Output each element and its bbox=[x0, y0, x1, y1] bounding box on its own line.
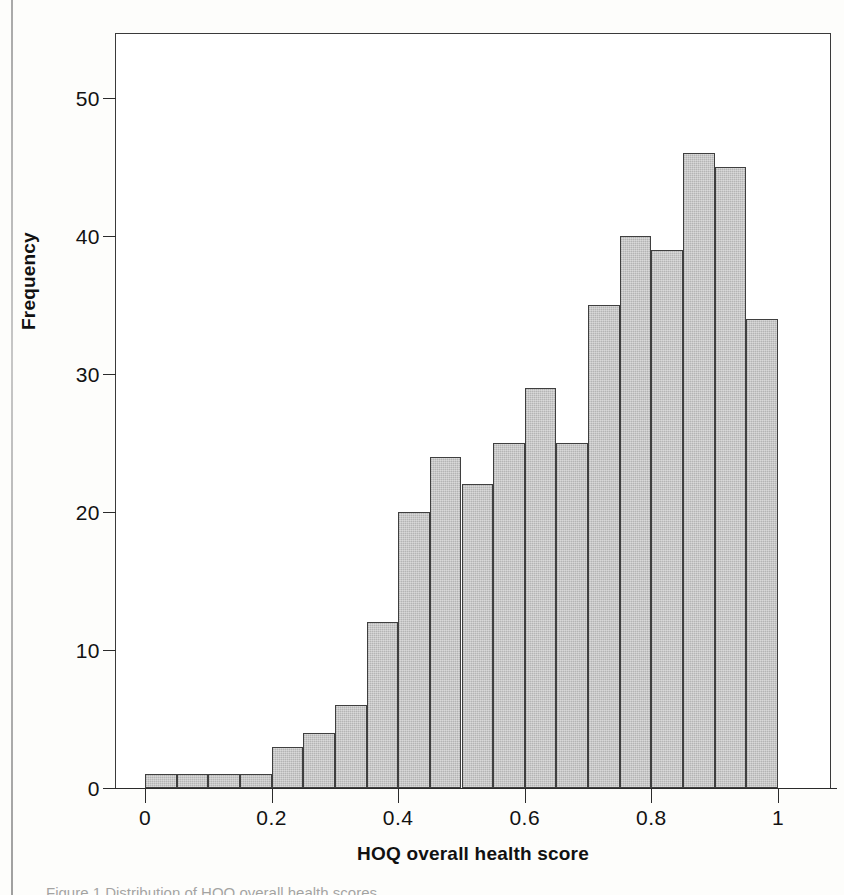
histogram-figure: 01020304050 00.20.40.60.81 Frequency HOQ… bbox=[0, 0, 844, 895]
x-axis-tick-label: 0.2 bbox=[232, 806, 312, 830]
y-axis-tick-label: 50 bbox=[40, 87, 100, 111]
histogram-bar bbox=[335, 705, 367, 788]
x-axis-title: HOQ overall health score bbox=[115, 843, 831, 865]
y-axis-tick bbox=[103, 236, 116, 237]
y-axis-tick bbox=[103, 374, 116, 375]
y-axis-tick bbox=[103, 650, 116, 651]
x-axis-tick bbox=[525, 789, 526, 803]
y-axis-tick-label: 30 bbox=[40, 363, 100, 387]
x-axis-tick bbox=[145, 789, 146, 803]
histogram-bar bbox=[746, 319, 778, 788]
histogram-bar bbox=[398, 512, 430, 788]
histogram-bar bbox=[588, 305, 620, 788]
y-axis-tick-label: 10 bbox=[40, 639, 100, 663]
histogram-bar bbox=[683, 153, 715, 788]
y-axis-tick-label: 0 bbox=[40, 777, 100, 801]
histogram-bar bbox=[240, 774, 272, 788]
x-axis-tick-label: 0.6 bbox=[485, 806, 565, 830]
x-axis-tick-label: 0 bbox=[105, 806, 185, 830]
histogram-bar bbox=[272, 747, 304, 788]
histogram-bar bbox=[208, 774, 240, 788]
y-axis-tick-label: 20 bbox=[40, 501, 100, 525]
histogram-bar bbox=[493, 443, 525, 788]
histogram-bar bbox=[556, 443, 588, 788]
y-axis-tick-label: 40 bbox=[40, 225, 100, 249]
histogram-bar bbox=[620, 236, 652, 788]
x-axis-tick bbox=[272, 789, 273, 803]
histogram-bar bbox=[303, 733, 335, 788]
histogram-bar bbox=[715, 167, 747, 788]
x-axis-tick-label: 1 bbox=[738, 806, 818, 830]
x-axis-tick bbox=[398, 789, 399, 803]
figure-caption: Figure 1 Distribution of HOQ overall hea… bbox=[46, 884, 806, 895]
x-axis-tick bbox=[651, 789, 652, 803]
histogram-bar bbox=[525, 388, 557, 788]
histogram-bars bbox=[145, 33, 778, 788]
histogram-bar bbox=[462, 484, 494, 788]
x-axis-tick-label: 0.8 bbox=[611, 806, 691, 830]
histogram-bar bbox=[430, 457, 462, 788]
y-axis-tick bbox=[103, 788, 116, 789]
x-axis-line-stub bbox=[831, 788, 837, 789]
histogram-bar bbox=[367, 622, 399, 788]
y-axis-tick bbox=[103, 98, 116, 99]
y-axis-tick-labels: 01020304050 bbox=[28, 0, 100, 895]
plot-area bbox=[115, 33, 831, 788]
histogram-bar bbox=[651, 250, 683, 788]
histogram-bar bbox=[145, 774, 177, 788]
x-axis-tick-label: 0.4 bbox=[358, 806, 438, 830]
x-axis-tick bbox=[778, 789, 779, 803]
y-axis-tick bbox=[103, 512, 116, 513]
y-axis-title: Frequency bbox=[18, 232, 40, 330]
x-axis-line bbox=[115, 788, 831, 789]
histogram-bar bbox=[177, 774, 209, 788]
